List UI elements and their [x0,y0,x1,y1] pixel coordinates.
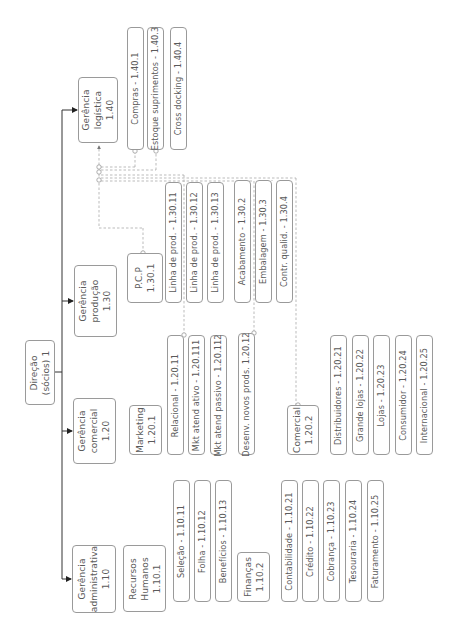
item-label: Linha de prod. - 1.30.11 [168,192,179,293]
dept-comercial-box[interactable]: Gerência comercial 1.20 [73,398,116,464]
item-label: Folha - 1.10.12 [197,510,208,573]
item-label: Cross docking - 1.40.4 [173,42,184,136]
item-lojas[interactable]: Lojas - 1.20.23 [373,335,390,455]
unit-label: Recursos Humanos 1.10.1 [127,557,163,600]
item-contabilidade[interactable]: Contabilidade - 1.10.21 [281,480,298,602]
unit-label: Comercial 1.20.2 [291,407,315,453]
item-label: Consumidor - 1.20.24 [398,350,409,441]
item-label: Linha de prod. - 1.30.12 [189,192,200,293]
item-label: Linha de prod. - 1.30.13 [210,192,221,293]
item-estoque-suprimentos[interactable]: Estoque suprimentos - 1.40.3 [147,27,164,150]
item-mkt-atend-passivo[interactable]: Mkt atend passivo - 1.20.112 [210,335,227,455]
item-label: Seleção - 1.10.11 [176,504,187,577]
item-label: Desenv. novos prods. 1.20.12 [241,332,252,456]
unit-label: Finanças 1.10.2 [242,557,266,597]
item-label: Acabamento - 1.30.2 [237,198,248,286]
item-distribuidores[interactable]: Distribuidores - 1.20.21 [330,335,347,455]
dept-logistica-box[interactable]: Gerência logística 1.40 [78,77,118,143]
item-linha-prod-1[interactable]: Linha de prod. - 1.30.11 [165,182,182,303]
dept-producao-label: Gerência produção 1.30 [78,280,114,323]
root-label: Direção (sócios) 1 [28,350,52,394]
item-label: Relacional - 1.20.11 [170,353,181,436]
unit-label: Marketing 1.20.1 [134,407,158,453]
item-label: Contabilidade - 1.10.21 [284,492,295,590]
item-label: Compras - 1.40.1 [130,52,141,124]
item-folha[interactable]: Folha - 1.10.12 [194,480,211,602]
item-tesouraria[interactable]: Tesouraria - 1.10.24 [345,480,362,602]
unit-comercial-box[interactable]: Comercial 1.20.2 [287,405,319,455]
item-label: Faturamento - 1.10.25 [370,494,381,588]
dept-administrativa-box[interactable]: Gerência administrativa 1.10 [72,545,116,613]
unit-recursos-humanos-box[interactable]: Recursos Humanos 1.10.1 [123,545,166,612]
item-linha-prod-2[interactable]: Linha de prod. - 1.30.12 [186,182,203,303]
item-desenv-novos-prods[interactable]: Desenv. novos prods. 1.20.12 [238,333,255,455]
item-label: Tesouraria - 1.10.24 [348,499,359,583]
dept-administrativa-label: Gerência administrativa 1.10 [76,546,112,612]
item-compras[interactable]: Compras - 1.40.1 [127,27,144,150]
item-label: Internacional - 1.20.25 [419,347,430,442]
item-label: Mkt atend passivo - 1.20.112 [213,334,224,456]
dept-logistica-label: Gerência logística 1.40 [80,89,116,130]
item-mkt-atend-ativo[interactable]: Mkt atend ativo - 1.20.111 [188,335,205,455]
org-chart: Direção (sócios) 1 Gerência logística 1.… [0,0,455,637]
item-cobranca[interactable]: Cobrança - 1.10.23 [323,480,340,602]
item-label: Contr. qualid. - 1.30.4 [279,196,290,287]
item-credito[interactable]: Crédito - 1.10.22 [302,480,319,602]
item-internacional[interactable]: Internacional - 1.20.25 [416,335,433,455]
unit-pcp-box[interactable]: P.C.P 1.30.1 [127,253,163,303]
item-linha-prod-3[interactable]: Linha de prod. - 1.30.13 [207,182,224,303]
item-grande-lojas[interactable]: Grande lojas - 1.20.22 [352,335,369,455]
item-faturamento[interactable]: Faturamento - 1.10.25 [367,480,384,602]
root-direcao-box[interactable]: Direção (sócios) 1 [25,340,55,405]
dept-comercial-label: Gerência comercial 1.20 [77,409,113,454]
item-acabamento[interactable]: Acabamento - 1.30.2 [234,180,251,303]
item-label: Embalagem - 1.30.3 [258,199,269,284]
unit-label: P.C.P 1.30.1 [133,263,157,292]
item-label: Distribuidores - 1.20.21 [333,346,344,445]
item-cross-docking[interactable]: Cross docking - 1.40.4 [170,27,187,150]
item-label: Crédito - 1.10.22 [305,506,316,577]
item-label: Lojas - 1.20.23 [376,364,387,426]
item-label: Cobrança - 1.10.23 [326,501,337,581]
item-selecao[interactable]: Seleção - 1.10.11 [173,480,190,602]
unit-financas-box[interactable]: Finanças 1.10.2 [237,552,270,602]
dept-producao-box[interactable]: Gerência produção 1.30 [74,265,117,337]
item-label: Mkt atend ativo - 1.20.111 [191,339,202,450]
item-label: Grande lojas - 1.20.22 [355,348,366,441]
item-relacional[interactable]: Relacional - 1.20.11 [167,335,184,455]
item-label: Estoque suprimentos - 1.40.3 [150,27,161,151]
item-label: Benefícios - 1.10.13 [218,499,229,583]
item-consumidor[interactable]: Consumidor - 1.20.24 [395,335,412,455]
item-contr-qualid[interactable]: Contr. qualid. - 1.30.4 [276,180,293,303]
unit-marketing-box[interactable]: Marketing 1.20.1 [129,405,162,455]
item-beneficios[interactable]: Benefícios - 1.10.13 [215,480,232,602]
item-embalagem[interactable]: Embalagem - 1.30.3 [255,180,272,303]
